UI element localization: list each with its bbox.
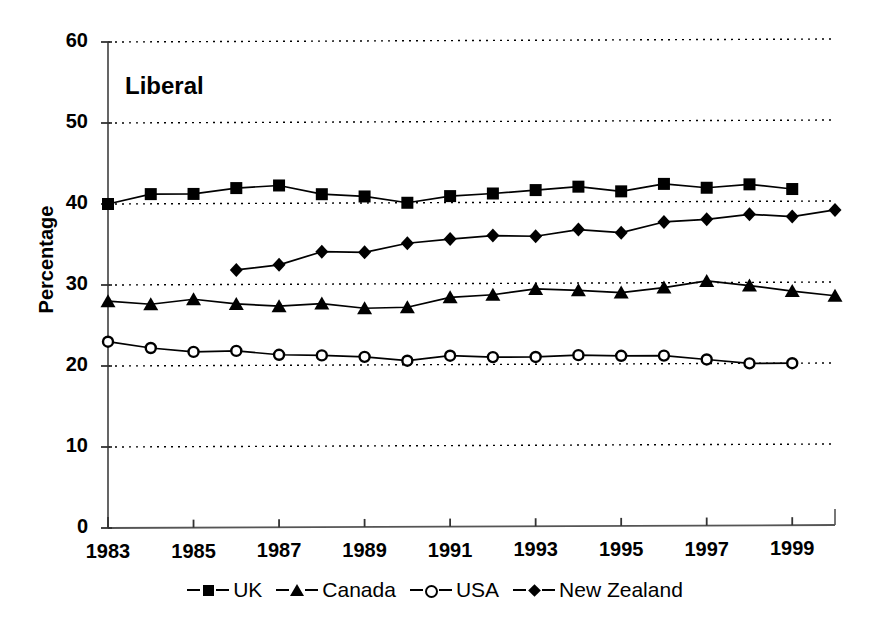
data-point-marker	[188, 188, 200, 200]
data-point-marker	[230, 263, 243, 277]
data-point-marker	[402, 356, 412, 366]
data-point-marker	[231, 346, 241, 356]
data-point-marker	[186, 292, 201, 305]
series-canada	[101, 274, 843, 314]
data-point-marker	[658, 178, 670, 190]
data-point-marker	[744, 358, 754, 368]
data-point-marker	[786, 210, 799, 224]
legend-label: New Zealand	[559, 578, 683, 602]
chart-legend: UKCanadaUSANew Zealand	[0, 578, 870, 602]
data-point-marker	[444, 190, 456, 202]
data-point-marker	[145, 188, 157, 200]
legend-entry-new-zealand: New Zealand	[513, 578, 683, 602]
legend-entry-usa: USA	[410, 578, 499, 602]
data-point-marker	[317, 350, 327, 360]
data-point-marker	[486, 229, 499, 243]
data-point-marker	[103, 337, 113, 347]
data-point-marker	[444, 232, 457, 246]
data-point-marker	[530, 184, 542, 196]
data-point-marker	[273, 179, 285, 191]
data-point-marker	[787, 358, 797, 368]
legend-entry-uk: UK	[187, 578, 262, 602]
legend-label: USA	[456, 578, 499, 602]
data-point-marker	[615, 185, 627, 197]
data-point-marker	[359, 190, 371, 202]
data-point-marker	[529, 229, 542, 243]
data-point-marker	[702, 354, 712, 364]
legend-label: UK	[233, 578, 262, 602]
series-new-zealand	[230, 203, 842, 277]
data-point-marker	[829, 203, 842, 217]
legend-entry-canada: Canada	[276, 578, 396, 602]
data-point-marker	[315, 245, 328, 259]
data-point-marker	[274, 350, 284, 360]
data-point-marker	[573, 350, 583, 360]
legend-marker-open-circle-icon	[410, 582, 452, 598]
data-point-marker	[401, 197, 413, 209]
data-point-marker	[230, 182, 242, 194]
data-point-marker	[657, 215, 670, 229]
series-usa	[103, 337, 797, 369]
data-point-marker	[701, 182, 713, 194]
series-uk	[102, 178, 798, 210]
data-point-marker	[358, 245, 371, 259]
data-point-marker	[615, 226, 628, 240]
data-point-marker	[572, 181, 584, 193]
data-point-marker	[401, 236, 414, 250]
liberal-percentage-line-chart: Percentage Liberal 0102030405060 1983198…	[0, 0, 870, 633]
data-point-marker	[316, 188, 328, 200]
data-point-marker	[101, 294, 116, 307]
data-point-marker	[189, 347, 199, 357]
data-point-marker	[659, 351, 669, 361]
data-point-marker	[699, 274, 714, 287]
data-point-marker	[146, 343, 156, 353]
data-point-marker	[487, 188, 499, 200]
data-point-marker	[743, 207, 756, 221]
data-point-marker	[488, 352, 498, 362]
data-point-marker	[700, 212, 713, 226]
data-point-marker	[743, 178, 755, 190]
legend-marker-filled-triangle-icon	[276, 582, 318, 598]
legend-marker-filled-square-icon	[187, 582, 229, 598]
data-point-marker	[616, 351, 626, 361]
data-point-marker	[786, 183, 798, 195]
plot-area	[0, 0, 870, 633]
data-point-marker	[531, 352, 541, 362]
data-point-marker	[572, 223, 585, 237]
data-point-marker	[360, 352, 370, 362]
data-point-marker	[273, 258, 286, 272]
legend-label: Canada	[322, 578, 396, 602]
legend-marker-filled-diamond-icon	[513, 582, 555, 598]
data-point-marker	[445, 351, 455, 361]
data-point-marker	[102, 198, 114, 210]
